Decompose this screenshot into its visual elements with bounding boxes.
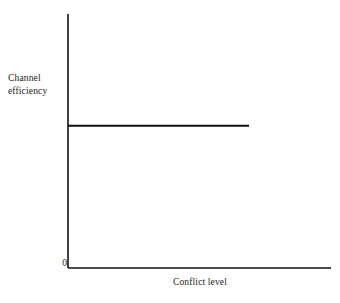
chart-figure: Channel efficiency Conflict level 0 [0,0,340,303]
plot-area [0,0,340,303]
origin-tick-label: 0 [57,258,67,269]
y-axis-label: Channel efficiency [8,72,62,97]
x-axis-label: Conflict level [120,276,280,289]
